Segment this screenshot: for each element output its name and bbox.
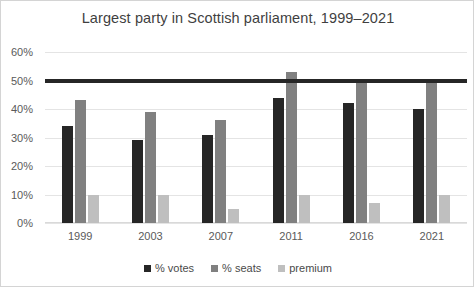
legend-item-votes[interactable]: % votes [144, 262, 194, 274]
bar-2011-premium [299, 195, 310, 224]
legend-swatch-icon [278, 265, 285, 272]
bar-1999-premium [88, 195, 99, 224]
gridline-30pct [45, 138, 467, 139]
x-tick-label-2003: 2003 [115, 230, 185, 242]
y-tick-label: 0% [0, 217, 33, 229]
x-tick-label-2021: 2021 [397, 230, 467, 242]
gridline-60pct [45, 52, 467, 53]
legend-label: premium [289, 262, 332, 274]
x-tick-label-2016: 2016 [326, 230, 396, 242]
bar-2021-premium [439, 195, 450, 224]
x-tick-label-2011: 2011 [256, 230, 326, 242]
bar-2003-votes [132, 140, 143, 223]
bar-2007-seats [215, 120, 226, 223]
legend-swatch-icon [211, 265, 218, 272]
legend-item-premium[interactable]: premium [278, 262, 332, 274]
bar-2016-votes [343, 103, 354, 223]
bar-2003-premium [158, 195, 169, 224]
bar-2016-seats [356, 83, 367, 223]
chart-legend: % votes% seatspremium [1, 262, 474, 274]
x-tick-label-2007: 2007 [186, 230, 256, 242]
legend-label: % votes [155, 262, 194, 274]
y-tick-label: 10% [0, 189, 33, 201]
gridline-0pct [45, 223, 467, 224]
y-tick-label: 60% [0, 46, 33, 58]
plot-area: 0%10%20%30%40%50%60% 1999200320072011201… [45, 52, 467, 223]
y-tick-label: 50% [0, 75, 33, 87]
chart-container: Largest party in Scottish parliament, 19… [0, 0, 474, 287]
bar-2007-votes [202, 135, 213, 223]
gridline-40pct [45, 109, 467, 110]
legend-label: % seats [222, 262, 261, 274]
gridline-20pct [45, 166, 467, 167]
bar-2011-votes [273, 98, 284, 223]
bar-2003-seats [145, 112, 156, 223]
bar-1999-seats [75, 100, 86, 223]
chart-title: Largest party in Scottish parliament, 19… [1, 10, 474, 26]
bar-2021-seats [426, 81, 437, 224]
bar-1999-votes [62, 126, 73, 223]
x-tick-label-1999: 1999 [45, 230, 115, 242]
bar-2021-votes [413, 109, 424, 223]
legend-swatch-icon [144, 265, 151, 272]
bar-2007-premium [228, 209, 239, 223]
y-tick-label: 40% [0, 103, 33, 115]
legend-item-seats[interactable]: % seats [211, 262, 261, 274]
gridline-10pct [45, 195, 467, 196]
y-tick-label: 20% [0, 160, 33, 172]
bar-2016-premium [369, 203, 380, 223]
bar-2011-seats [286, 72, 297, 223]
y-tick-label: 30% [0, 132, 33, 144]
x-axis-line [45, 222, 467, 223]
majority-threshold-line [45, 79, 467, 83]
